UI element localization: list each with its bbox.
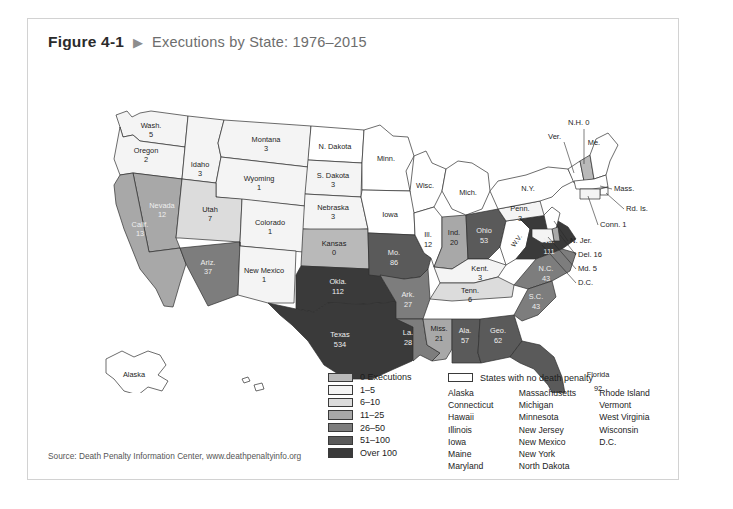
- label-illinois-value: 12: [424, 240, 432, 249]
- label-washington-name: Wash.: [141, 121, 162, 130]
- list-item: West Virginia: [599, 411, 670, 423]
- legend-swatch-11-25: [328, 410, 353, 420]
- label-indiana-value: 20: [450, 238, 458, 247]
- label-utah-name: Utah: [202, 205, 218, 214]
- leader-connecticut: [588, 196, 598, 225]
- label-maine-name: Me.: [588, 138, 600, 147]
- label-nebraska-name: Nebraska: [317, 203, 350, 212]
- legend-label-no-death-penalty: States with no death penalty: [480, 373, 593, 383]
- label-ohio-name: Ohio: [476, 226, 492, 235]
- legend-bins: 0 Executions 1–5 6–10 11–25 26–50 51–100: [328, 371, 412, 459]
- label-california-value: 13: [136, 229, 144, 238]
- state-shape-nebraska[interactable]: [303, 194, 368, 231]
- no-death-penalty-column-1: Alaska Connecticut Hawaii Illinois Iowa …: [448, 387, 519, 472]
- label-mississippi-value: 21: [435, 334, 443, 343]
- label-nebraska-value: 3: [331, 212, 335, 221]
- legend-row: 51–100: [328, 434, 412, 447]
- label-kansas-value: 0: [332, 248, 336, 257]
- arrow-right-icon: ▶: [133, 36, 143, 49]
- label-georgia-value: 62: [494, 336, 502, 345]
- label-southdakota-value: 3: [331, 180, 335, 189]
- list-item: Michigan: [519, 399, 599, 411]
- label-tennessee-name: Tenn.: [461, 286, 479, 295]
- label-california-name: Calif.: [132, 220, 149, 229]
- label-northcarolina-name: N.C.: [539, 264, 554, 273]
- label-texas-name: Texas: [330, 330, 350, 339]
- legend-label-6-10: 6–10: [360, 397, 380, 407]
- label-colorado-name: Colorado: [255, 218, 285, 227]
- no-death-penalty-column-3: Rhode Island Vermont West Virginia Wisco…: [599, 387, 670, 472]
- label-pennsylvania-value: 3: [518, 214, 522, 223]
- label-rhodeisland-callout: Rd. Is.: [626, 204, 648, 213]
- label-kentucky-value: 3: [478, 273, 482, 282]
- label-wisconsin-name: Wisc.: [416, 181, 434, 190]
- figure-header: Figure 4-1 ▶ Executions by State: 1976–2…: [48, 33, 367, 51]
- legend-swatch-51-100: [328, 436, 353, 446]
- legend-row: 6–10: [328, 396, 412, 409]
- legend-swatch-26-50: [328, 423, 353, 433]
- label-maryland-callout: Md. 5: [578, 264, 597, 273]
- label-oregon-name: Oregon: [134, 146, 159, 155]
- list-item: North Dakota: [519, 460, 599, 472]
- label-colorado-value: 1: [268, 227, 272, 236]
- label-louisiana-name: La.: [403, 328, 413, 337]
- label-newmexico-value: 1: [262, 275, 266, 284]
- label-wyoming-value: 1: [257, 183, 261, 192]
- label-arizona-name: Ariz.: [201, 258, 216, 267]
- label-southdakota-name: S. Dakota: [317, 171, 350, 180]
- legend-swatch-6-10: [328, 398, 353, 408]
- list-item: Vermont: [599, 399, 670, 411]
- legend-row-no-death-penalty: States with no death penalty: [448, 371, 670, 384]
- list-item: Alaska: [448, 387, 519, 399]
- list-item: Connecticut: [448, 399, 519, 411]
- label-oklahoma-value: 112: [332, 287, 344, 296]
- label-virginia-name: Va.: [544, 236, 555, 245]
- figure-number: Figure 4-1: [48, 33, 124, 51]
- list-item: Maine: [448, 448, 519, 460]
- legend-row: 1–5: [328, 384, 412, 397]
- label-vermont-callout: Ver.: [548, 132, 561, 141]
- label-newyork-name: N.Y.: [521, 184, 534, 193]
- label-nevada-name: Nevada: [149, 201, 175, 210]
- figure-card: Figure 4-1 ▶ Executions by State: 1976–2…: [27, 18, 679, 480]
- no-death-penalty-column-2: Massachusetts Michigan Minnesota New Jer…: [519, 387, 599, 472]
- legend-swatch-over-100: [328, 448, 353, 458]
- label-michigan-name: Mich.: [459, 188, 477, 197]
- list-item: Hawaii: [448, 411, 519, 423]
- label-louisiana-value: 28: [404, 338, 412, 347]
- label-wyoming-name: Wyoming: [244, 174, 275, 183]
- label-massachusetts-callout: Mass.: [614, 184, 634, 193]
- label-northcarolina-value: 43: [542, 274, 550, 283]
- list-item: Maryland: [448, 460, 519, 472]
- label-alabama-name: Ala.: [459, 326, 472, 335]
- label-arizona-value: 37: [204, 267, 212, 276]
- label-delaware-callout: Del. 16: [578, 250, 602, 259]
- label-nevada-value: 12: [158, 210, 166, 219]
- list-item: Massachusetts: [519, 387, 599, 399]
- label-pennsylvania-name: Penn.: [510, 204, 529, 213]
- label-missouri-name: Mo.: [388, 248, 400, 257]
- label-alaska-name: Alaska: [123, 370, 146, 379]
- label-kansas-name: Kansas: [322, 239, 347, 248]
- label-montana-name: Montana: [252, 135, 282, 144]
- label-georgia-name: Geo.: [490, 326, 506, 335]
- leader-rhodeisland: [606, 193, 624, 209]
- label-montana-value: 3: [264, 144, 268, 153]
- us-choropleth-map: Wash. 5 Oregon 2 Idaho 3 Montana 3 Wyomi…: [28, 63, 678, 393]
- label-newmexico-name: New Mexico: [244, 266, 284, 275]
- legend-label-26-50: 26–50: [360, 423, 385, 433]
- label-washington-value: 5: [149, 130, 153, 139]
- list-item: New York: [519, 448, 599, 460]
- state-shape-connecticut[interactable]: [580, 189, 600, 199]
- figure-source: Source: Death Penalty Information Center…: [48, 451, 301, 461]
- list-item: Minnesota: [519, 411, 599, 423]
- label-arkansas-name: Ark.: [401, 290, 414, 299]
- list-item: Iowa: [448, 436, 519, 448]
- label-minnesota-name: Minn.: [377, 154, 395, 163]
- no-death-penalty-state-columns: Alaska Connecticut Hawaii Illinois Iowa …: [448, 387, 670, 472]
- label-newjersey-callout: N. Jer.: [570, 236, 592, 245]
- label-tennessee-value: 6: [468, 295, 472, 304]
- label-idaho-value: 3: [198, 169, 202, 178]
- legend-label-11-25: 11–25: [360, 410, 384, 420]
- label-southcarolina-name: S.C.: [529, 292, 543, 301]
